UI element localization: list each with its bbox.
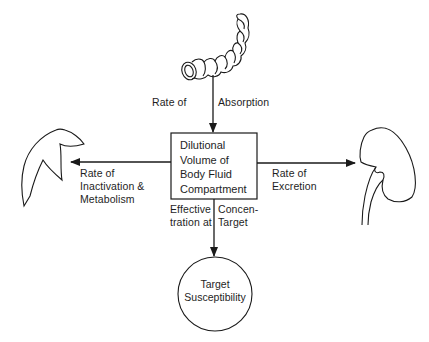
concentration-line: Concen- xyxy=(218,203,258,216)
box-line: Dilutional xyxy=(180,138,247,153)
excretion-line: Rate of xyxy=(272,167,317,180)
kidney-icon xyxy=(360,128,415,225)
concentration-line: tration at xyxy=(170,216,212,229)
circle-line: Susceptibility xyxy=(178,291,252,304)
excretion-line: Excretion xyxy=(272,180,317,193)
box-line: Body Fluid xyxy=(180,167,247,182)
liver-icon xyxy=(22,129,84,206)
inactivation-line: Rate of xyxy=(80,167,144,180)
inactivation-label: Rate of Inactivation & Metabolism xyxy=(80,167,144,206)
circle-line: Target xyxy=(178,278,252,291)
box-line: Compartment xyxy=(180,182,247,197)
inactivation-line: Metabolism xyxy=(80,193,144,206)
inactivation-line: Inactivation & xyxy=(80,180,144,193)
effective-concentration-label-right: Concen- Target xyxy=(218,203,258,229)
box-line: Volume of xyxy=(180,153,247,168)
excretion-label: Rate of Excretion xyxy=(272,167,317,193)
concentration-line: Target xyxy=(218,216,258,229)
concentration-line: Effective xyxy=(170,203,212,216)
central-box-label: Dilutional Volume of Body Fluid Compartm… xyxy=(180,138,247,196)
absorption-label-left: Rate of xyxy=(152,96,187,109)
intestine-icon xyxy=(179,14,249,82)
effective-concentration-label-left: Effective tration at xyxy=(170,203,212,229)
absorption-label-right: Absorption xyxy=(218,96,269,109)
target-susceptibility-label: Target Susceptibility xyxy=(178,278,252,304)
